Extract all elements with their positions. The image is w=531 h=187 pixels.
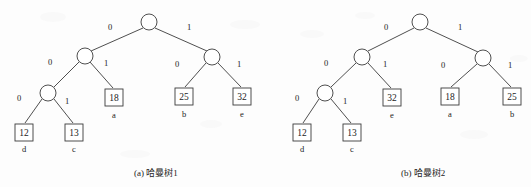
huffman-tree-2-edge-leftleft-left bbox=[303, 99, 319, 123]
huffman-tree-1-edge-left-right bbox=[90, 62, 113, 88]
huffman-tree-2-edge-left-right bbox=[368, 63, 391, 88]
huffman-tree-1-node-internal-left-left[interactable] bbox=[40, 85, 56, 101]
huffman-tree-1-caption: (a) 哈曼树1 bbox=[134, 166, 178, 179]
huffman-tree-1-node-internal-right[interactable] bbox=[204, 49, 220, 65]
huffman-tree-2-edge-leftleft-right-label: 1 bbox=[343, 96, 347, 106]
huffman-tree-2-edge-left-right-label: 1 bbox=[383, 59, 387, 69]
huffman-tree-2-leaf-12-letter: d bbox=[293, 144, 311, 154]
huffman-tree-1-edge-right-left-label: 0 bbox=[175, 59, 179, 69]
huffman-tree-2-leaf-13-value: 13 bbox=[343, 128, 361, 138]
huffman-tree-1 bbox=[15, 14, 251, 141]
huffman-tree-2-leaf-18-letter: a bbox=[441, 109, 459, 119]
huffman-tree-1-edge-root-left-label: 0 bbox=[108, 22, 112, 32]
huffman-tree-2-leaf-12-value: 12 bbox=[293, 128, 311, 138]
huffman-tree-1-leaf-12-letter: d bbox=[15, 144, 33, 154]
huffman-tree-1-node-root[interactable] bbox=[141, 14, 157, 30]
huffman-tree-1-edge-leftleft-left-label: 0 bbox=[17, 93, 21, 103]
huffman-tree-2-edge-root-left bbox=[368, 28, 414, 51]
huffman-tree-1-edge-leftleft-right bbox=[54, 99, 73, 123]
huffman-tree-2-node-internal-right[interactable] bbox=[475, 50, 491, 66]
huffman-tree-1-edge-leftleft-left bbox=[25, 99, 42, 123]
huffman-tree-1-leaf-18-value: 18 bbox=[105, 93, 123, 103]
huffman-tree-1-edge-right-right-label: 1 bbox=[237, 59, 241, 69]
huffman-tree-2-leaf-25-letter: b bbox=[503, 109, 521, 119]
huffman-tree-2-node-internal-left-left[interactable] bbox=[317, 85, 333, 101]
huffman-tree-2-leaf-25-value: 25 bbox=[503, 92, 521, 102]
huffman-tree-2-leaf-32-value: 32 bbox=[383, 93, 401, 103]
huffman-tree-2-edge-right-left-label: 0 bbox=[441, 60, 445, 70]
huffman-tree-1-leaf-32-value: 32 bbox=[233, 92, 251, 102]
huffman-tree-1-edge-left-left-label: 0 bbox=[48, 57, 52, 67]
huffman-tree-2-edge-left-left-label: 0 bbox=[324, 58, 328, 68]
huffman-tree-2-edge-right-right-label: 1 bbox=[508, 60, 512, 70]
huffman-tree-2-leaf-18-value: 18 bbox=[441, 92, 459, 102]
huffman-tree-1-leaf-32-letter: e bbox=[233, 109, 251, 119]
huffman-tree-2-node-internal-left[interactable] bbox=[354, 49, 370, 65]
huffman-tree-1-leaf-13-letter: c bbox=[65, 144, 83, 154]
huffman-tree-1-node-internal-left[interactable] bbox=[77, 48, 93, 64]
huffman-tree-1-leaf-18-letter: a bbox=[105, 110, 123, 120]
huffman-tree-1-edge-leftleft-right-label: 1 bbox=[65, 96, 69, 106]
huffman-tree-1-leaf-13-value: 13 bbox=[65, 128, 83, 138]
huffman-tree-1-leaf-25-letter: b bbox=[175, 109, 193, 119]
huffman-tree-2-edge-right-left bbox=[451, 64, 477, 87]
huffman-tree-2-edge-root-right-label: 1 bbox=[458, 22, 462, 32]
huffman-tree-1-edge-root-right-label: 1 bbox=[187, 22, 191, 32]
huffman-tree-2 bbox=[293, 14, 521, 141]
huffman-tree-2-caption: (b) 哈曼树2 bbox=[401, 166, 445, 179]
huffman-tree-1-leaf-12-value: 12 bbox=[15, 128, 33, 138]
huffman-tree-2-edge-root-right bbox=[426, 28, 478, 52]
huffman-tree-figure: 0101010112d13c18a25b32e(a) 哈曼树1010101011… bbox=[0, 0, 531, 187]
huffman-tree-1-leaf-25-value: 25 bbox=[175, 92, 193, 102]
huffman-tree-1-edge-left-left bbox=[54, 62, 79, 87]
huffman-tree-1-edge-right-left bbox=[185, 63, 206, 87]
huffman-tree-2-edge-root-left-label: 0 bbox=[384, 22, 388, 32]
huffman-tree-2-leaf-13-letter: c bbox=[343, 144, 361, 154]
huffman-tree-2-edge-leftleft-left-label: 0 bbox=[295, 93, 299, 103]
huffman-tree-1-edge-root-right bbox=[155, 28, 207, 51]
huffman-tree-2-edge-left-left bbox=[331, 63, 356, 87]
huffman-tree-1-edge-root-left bbox=[91, 28, 143, 51]
huffman-tree-2-leaf-32-letter: e bbox=[383, 110, 401, 120]
huffman-tree-2-node-root[interactable] bbox=[412, 14, 428, 30]
huffman-tree-1-edge-left-right-label: 1 bbox=[104, 58, 108, 68]
huffman-tree-2-edge-leftleft-right bbox=[331, 99, 351, 123]
